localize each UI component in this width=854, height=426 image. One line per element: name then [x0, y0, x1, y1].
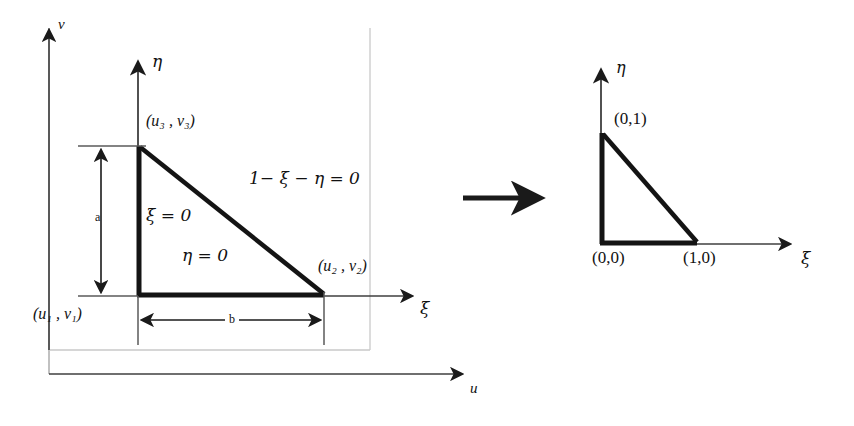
axis-label-xi-left: ξ: [420, 300, 429, 317]
edge-equation-eta-zero: η = 0: [182, 247, 228, 264]
axis-label-u: u: [470, 381, 478, 396]
reference-triangle: [600, 133, 697, 244]
vertex-label-2: (u₂ , v₂): [318, 258, 367, 274]
dimension-label-b: b: [225, 313, 239, 325]
axis-label-v: v: [58, 17, 65, 32]
ref-vertex-label-xi: (1,0): [683, 249, 716, 266]
ref-vertex-label-eta: (0,1): [614, 110, 647, 127]
axis-label-eta-right: η: [616, 60, 626, 76]
edge-equation-xi-zero: ξ = 0: [146, 207, 191, 224]
diagram-canvas: [0, 0, 854, 426]
vertex-label-3: (u₃ , v₃): [146, 113, 195, 129]
ref-vertex-label-origin: (0,0): [592, 249, 625, 266]
axis-label-eta-left: η: [152, 53, 162, 70]
left-figure-frame: [49, 28, 462, 374]
figure-container: v u η ξ (u₁ , v₁) (u₂ , v₂) (u₃ , v₃) ξ …: [0, 0, 854, 426]
axis-label-xi-right: ξ: [801, 250, 810, 267]
vertex-label-1: (u₁ , v₁): [33, 306, 82, 322]
local-axes-right: [601, 70, 790, 244]
dimension-label-a: a: [95, 211, 100, 223]
edge-equation-hypotenuse: 1− ξ − η = 0: [249, 170, 360, 187]
